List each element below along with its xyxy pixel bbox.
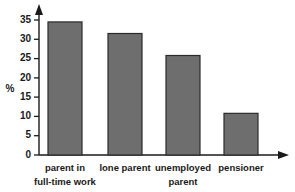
category-label: unemployed [155, 162, 211, 173]
y-tick-label: 10 [20, 110, 32, 121]
y-axis-ticks [34, 20, 39, 155]
x-axis-arrow-icon [278, 151, 289, 159]
category-label: parent [168, 176, 198, 187]
y-tick-label: 20 [20, 72, 32, 83]
category-label: full-time work [34, 176, 96, 187]
y-axis-arrow-icon [35, 4, 43, 15]
y-tick-label: 15 [20, 91, 32, 102]
y-tick-label: 0 [25, 149, 31, 160]
category-label: lone parent [99, 162, 151, 173]
category-label: pensioner [218, 162, 264, 173]
y-tick-label: 25 [20, 52, 32, 63]
y-axis-title: % [6, 83, 15, 94]
category-label: parent in [45, 162, 85, 173]
bar [224, 113, 258, 155]
y-axis-tick-labels: 0 5 10 15 20 25 30 35 [20, 14, 32, 160]
bar-chart: 0 5 10 15 20 25 30 35 % parent in full-t… [0, 0, 295, 192]
y-tick-label: 5 [25, 129, 31, 140]
chart-canvas: 0 5 10 15 20 25 30 35 % parent in full-t… [0, 0, 295, 192]
bar [108, 34, 142, 156]
y-tick-label: 30 [20, 33, 32, 44]
y-tick-label: 35 [20, 14, 32, 25]
bars-group [48, 22, 258, 155]
bar [166, 55, 200, 155]
bar [48, 22, 82, 155]
x-axis-category-labels: parent in full-time work lone parent une… [34, 162, 264, 187]
